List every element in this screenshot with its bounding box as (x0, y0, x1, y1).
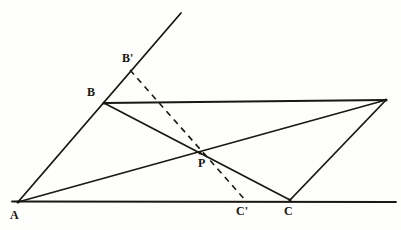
ray-a-through-b (18, 13, 181, 202)
label-C-prime: C' (236, 205, 248, 217)
segment-b-c (104, 103, 290, 200)
dashed-lines-group (130, 70, 246, 201)
segment-b-d (104, 100, 386, 103)
segment-c-d (290, 100, 386, 200)
vertex-marker-p (199, 152, 202, 155)
segment-a-d (18, 100, 386, 202)
baseline-through-a-c (12, 202, 396, 203)
dashed-b-prime-to-c-prime (130, 70, 246, 201)
vertex-marker-d (384, 98, 387, 101)
solid-lines-group (12, 13, 396, 202)
label-B-prime: B' (122, 52, 133, 64)
label-P: P (198, 157, 205, 169)
label-C: C (284, 205, 293, 217)
vertex-marker-b (102, 101, 105, 104)
label-B: B (87, 86, 95, 98)
vertex-marker-c (288, 198, 291, 201)
label-A: A (10, 209, 19, 221)
geometry-canvas (0, 0, 401, 230)
vertex-marker-a (16, 200, 19, 203)
geometry-figure: A B B' P C' C (0, 0, 401, 230)
